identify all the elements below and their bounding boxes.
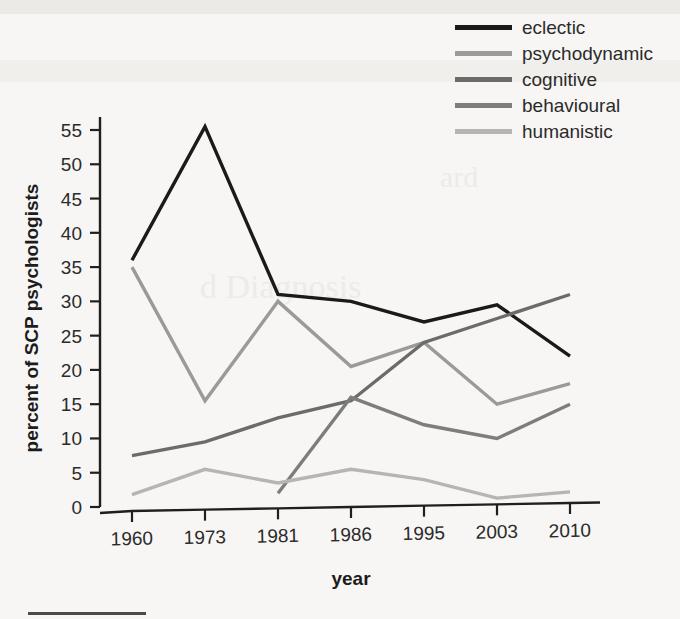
line-chart-svg: 0510152025303540455055 19601973198119861… (0, 0, 680, 619)
y-axis-title: percent of SCP psychologists (21, 184, 42, 453)
y-tick-label: 55 (61, 120, 82, 141)
series-line-cognitive (132, 295, 570, 456)
chart-page: ard d Diagnosis eclectic psychodynamic c… (0, 0, 680, 619)
y-tick-label: 0 (71, 497, 82, 518)
y-tick-label: 40 (61, 223, 82, 244)
x-tick-label: 1981 (257, 525, 300, 547)
page-footer-rule (28, 612, 146, 615)
x-axis-title: year (331, 568, 371, 589)
y-tick-label: 20 (61, 360, 82, 381)
y-axis-title-text: percent of SCP psychologists (21, 184, 42, 453)
y-tick-label: 25 (61, 326, 82, 347)
y-tick-label: 10 (61, 428, 82, 449)
y-axis: 0510152025303540455055 (61, 117, 100, 518)
x-tick-label: 1995 (403, 522, 446, 544)
series-line-eclectic (132, 127, 570, 357)
y-tick-label: 30 (61, 291, 82, 312)
y-tick-label: 15 (61, 394, 82, 415)
y-tick-label: 50 (61, 154, 82, 175)
x-tick-label: 1960 (111, 528, 154, 550)
y-tick-label: 35 (61, 257, 82, 278)
x-tick-label: 1973 (184, 526, 227, 548)
series-line-humanistic (132, 469, 570, 498)
chart-plot-area: 0510152025303540455055 19601973198119861… (0, 0, 680, 619)
x-tick-label: 2010 (549, 520, 592, 542)
x-tick-label: 2003 (476, 521, 519, 543)
series-line-psychodynamic (132, 267, 570, 404)
y-tick-label: 45 (61, 189, 82, 210)
x-axis: 1960197319811986199520032010 (100, 503, 600, 550)
y-tick-label: 5 (71, 463, 82, 484)
series-lines (132, 127, 570, 499)
x-tick-label: 1986 (330, 524, 373, 546)
x-axis-title-text: year (331, 568, 371, 589)
